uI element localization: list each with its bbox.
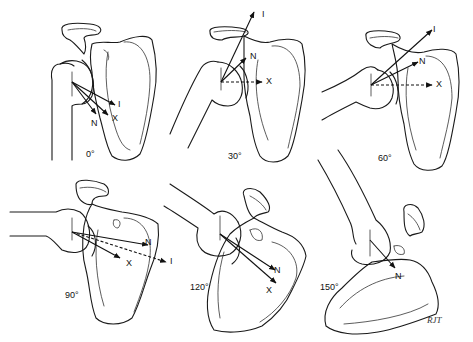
- vector-label-n-30: N: [250, 52, 257, 61]
- angle-label-90: 90°: [65, 291, 79, 300]
- angle-label-150: 150°: [320, 283, 339, 292]
- panel-120-deg: [164, 184, 306, 332]
- vector-label-i-0: I: [118, 100, 121, 109]
- vector-label-x-120: X: [266, 286, 272, 295]
- angle-label-0: 0°: [86, 150, 95, 159]
- vector-label-i-30: I: [262, 10, 265, 19]
- panel-150-deg: [318, 150, 438, 334]
- artist-signature: RJT: [427, 315, 442, 325]
- vector-label-n-60: N: [419, 57, 426, 66]
- vector-label-x-90: X: [126, 259, 132, 268]
- panel-60-deg: [322, 30, 459, 170]
- vector-label-n-150: N: [395, 272, 402, 281]
- vector-label-i-60: I: [433, 25, 436, 34]
- angle-label-120: 120°: [190, 283, 209, 292]
- vector-label-n-120: N: [274, 266, 281, 275]
- angle-label-60: 60°: [378, 154, 392, 163]
- vector-label-x-60: X: [436, 80, 442, 89]
- vector-label-n-0: N: [91, 119, 98, 128]
- panel-30-deg: [170, 12, 305, 162]
- panel-90-deg: [10, 180, 166, 324]
- vector-label-x-0: X: [112, 114, 118, 123]
- panel-0-deg: [51, 23, 156, 160]
- vector-label-x-30: X: [266, 77, 272, 86]
- vector-label-i-90: I: [170, 257, 173, 266]
- angle-label-30: 30°: [228, 152, 242, 161]
- vector-label-n-90: N: [145, 238, 152, 247]
- shoulder-vector-diagram: I X N 0° I N X 30° I N X 60° N X I 90° N…: [0, 0, 473, 342]
